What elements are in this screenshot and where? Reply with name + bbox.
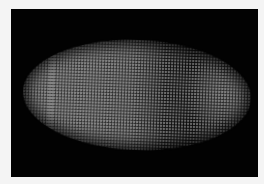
micrograph-frame [11, 9, 258, 177]
embryo [21, 36, 253, 154]
